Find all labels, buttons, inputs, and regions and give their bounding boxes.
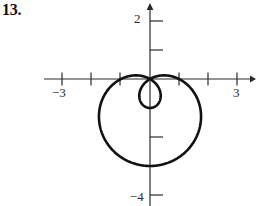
- x-tick-label-pos3: 3: [233, 86, 240, 100]
- y-axis-arrow-icon: [147, 3, 154, 10]
- y-tick-label-neg4: −4: [130, 190, 144, 204]
- axes-group: [44, 3, 256, 206]
- y-tick-label-pos2: 2: [134, 12, 141, 26]
- x-axis-arrow-icon: [250, 76, 256, 83]
- polar-curve-plot: [0, 0, 257, 206]
- figure-page: 13. −3 3 2 −4: [0, 0, 257, 206]
- x-tick-label-neg3: −3: [52, 86, 66, 100]
